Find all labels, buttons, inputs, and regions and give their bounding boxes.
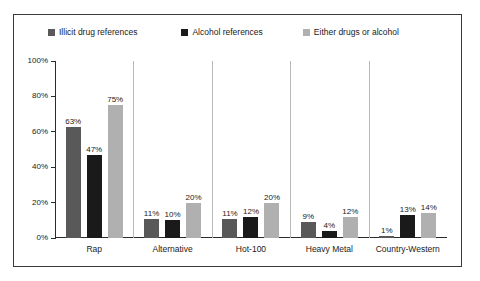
- bar-column[interactable]: 9%: [301, 61, 316, 238]
- legend-swatch-illicit-drug-references: [48, 29, 55, 36]
- y-axis-tick-label: 40%: [32, 162, 48, 171]
- bar-value-label: 20%: [264, 193, 280, 202]
- bar[interactable]: [222, 219, 237, 238]
- bar-group-bars: 11%10%20%: [133, 61, 211, 238]
- legend-label-alcohol-references: Alcohol references: [192, 27, 262, 37]
- bar-group-bars: 63%47%75%: [55, 61, 133, 238]
- bar[interactable]: [322, 231, 337, 238]
- legend-swatch-alcohol-references: [181, 29, 188, 36]
- bar-column[interactable]: 47%: [87, 61, 102, 238]
- x-axis-category-label: Heavy Metal: [290, 244, 368, 254]
- bar-value-label: 9%: [303, 212, 315, 221]
- bar-column[interactable]: 12%: [343, 61, 358, 238]
- bar-group: 11%12%20%Hot-100: [212, 61, 290, 238]
- bar-column[interactable]: 75%: [108, 61, 123, 238]
- bar-value-label: 11%: [144, 209, 159, 218]
- bar-column[interactable]: 1%: [379, 61, 394, 238]
- bar-column[interactable]: 20%: [186, 61, 201, 238]
- bar[interactable]: [400, 215, 415, 238]
- legend-item-alcohol-references: Alcohol references: [181, 27, 262, 37]
- x-axis-category-label: Alternative: [133, 244, 211, 254]
- bar-value-label: 75%: [107, 95, 123, 104]
- plot-area: 0%20%40%60%80%100% 63%47%75%Rap11%10%20%…: [55, 61, 447, 238]
- y-axis-tick-label: 100%: [28, 56, 48, 65]
- legend-label-either-drugs-or-alcohol: Either drugs or alcohol: [314, 27, 399, 37]
- bar-value-label: 20%: [186, 193, 202, 202]
- bar-group: 9%4%12%Heavy Metal: [290, 61, 368, 238]
- y-axis-tick-label: 20%: [32, 198, 48, 207]
- bar-value-label: 4%: [324, 221, 336, 230]
- bar-column[interactable]: 12%: [243, 61, 258, 238]
- bar[interactable]: [421, 213, 436, 238]
- bar-column[interactable]: 10%: [165, 61, 180, 238]
- legend-swatch-either-drugs-or-alcohol: [303, 29, 310, 36]
- bar[interactable]: [165, 220, 180, 238]
- bar-column[interactable]: 4%: [322, 61, 337, 238]
- bar-group-bars: 1%13%14%: [369, 61, 447, 238]
- bar-value-label: 12%: [243, 207, 259, 216]
- legend-label-illicit-drug-references: Illicit drug references: [59, 27, 137, 37]
- bar[interactable]: [144, 219, 159, 238]
- bar[interactable]: [343, 217, 358, 238]
- bar[interactable]: [108, 105, 123, 238]
- chart-legend: Illicit drug references Alcohol referenc…: [14, 27, 461, 37]
- bar-value-label: 11%: [222, 209, 237, 218]
- bar[interactable]: [66, 127, 81, 239]
- y-axis-tick-label: 80%: [32, 91, 48, 100]
- bar[interactable]: [87, 155, 102, 238]
- x-axis-category-label: Rap: [55, 244, 133, 254]
- y-axis-tick-label: 0%: [36, 233, 48, 242]
- x-axis-category-label: Hot-100: [212, 244, 290, 254]
- bar-value-label: 10%: [165, 210, 181, 219]
- bar-value-label: 63%: [65, 117, 81, 126]
- bar-column[interactable]: 63%: [66, 61, 81, 238]
- bar-value-label: 14%: [421, 203, 437, 212]
- legend-item-illicit-drug-references: Illicit drug references: [48, 27, 137, 37]
- bar-column[interactable]: 13%: [400, 61, 415, 238]
- bar-column[interactable]: 11%: [144, 61, 159, 238]
- bar-group-bars: 11%12%20%: [212, 61, 290, 238]
- bar-group: 1%13%14%Country-Western: [369, 61, 447, 238]
- bar-column[interactable]: 14%: [421, 61, 436, 238]
- legend-item-either-drugs-or-alcohol: Either drugs or alcohol: [303, 27, 399, 37]
- bar-value-label: 47%: [86, 145, 102, 154]
- bar[interactable]: [243, 217, 258, 238]
- bar-column[interactable]: 20%: [264, 61, 279, 238]
- bar-group: 11%10%20%Alternative: [133, 61, 211, 238]
- bar[interactable]: [379, 236, 394, 238]
- bar-group-bars: 9%4%12%: [290, 61, 368, 238]
- x-axis-category-label: Country-Western: [369, 244, 447, 254]
- bar-column[interactable]: 11%: [222, 61, 237, 238]
- bar[interactable]: [264, 203, 279, 238]
- bar[interactable]: [301, 222, 316, 238]
- y-axis-tick-label: 60%: [32, 127, 48, 136]
- bar-group: 63%47%75%Rap: [55, 61, 133, 238]
- bar-value-label: 1%: [381, 226, 393, 235]
- chart-figure: Illicit drug references Alcohol referenc…: [13, 14, 462, 267]
- bar-value-label: 13%: [400, 205, 416, 214]
- bar[interactable]: [186, 203, 201, 238]
- bar-value-label: 12%: [342, 207, 358, 216]
